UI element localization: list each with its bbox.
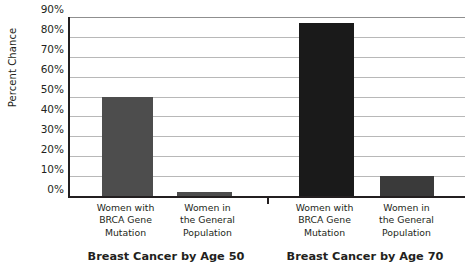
category-label-age70-general: Women in the General Population — [355, 202, 458, 239]
category-labels: Women with BRCA Gene Mutation Women in t… — [68, 202, 463, 244]
y-tick-label: 30% — [20, 124, 64, 135]
category-label-line: Women with — [296, 202, 354, 213]
y-tick-label: 70% — [20, 44, 64, 55]
category-label-line: the General — [379, 214, 434, 225]
y-tick-label: 80% — [20, 24, 64, 35]
category-label-line: BRCA Gene — [298, 214, 351, 225]
category-label-line: Mutation — [304, 227, 345, 238]
y-tick-label: 20% — [20, 144, 64, 155]
bar-age70-general — [380, 176, 434, 196]
y-tick-label: 0% — [20, 184, 64, 195]
category-label-line: Population — [183, 227, 232, 238]
y-tick-label: 10% — [20, 164, 64, 175]
group-title-age50: Breast Cancer by Age 50 — [68, 250, 264, 263]
bar-age50-general — [177, 192, 232, 196]
category-label-line: Women in — [383, 202, 429, 213]
y-tick-label: 90% — [20, 4, 64, 15]
bar-chart: Percent Chance 90% 80% 70% 60% 50% 40% 3… — [0, 0, 472, 274]
y-axis-tick-labels: 90% 80% 70% 60% 50% 40% 30% 20% 10% 0% — [20, 10, 64, 202]
category-label-line: BRCA Gene — [99, 214, 152, 225]
y-tick-label: 40% — [20, 104, 64, 115]
bar-age70-brca — [299, 23, 354, 196]
y-tick-label: 50% — [20, 84, 64, 95]
category-label-line: Women in — [184, 202, 230, 213]
category-label-line: Women with — [97, 202, 155, 213]
bar-age50-brca — [102, 97, 153, 196]
y-axis-title: Percent Chance — [7, 8, 18, 128]
plot-area — [68, 17, 465, 198]
y-tick-label: 60% — [20, 64, 64, 75]
category-label-line: Population — [382, 227, 431, 238]
category-label-age50-general: Women in the General Population — [156, 202, 259, 239]
group-title-age70: Breast Cancer by Age 70 — [267, 250, 463, 263]
group-titles: Breast Cancer by Age 50 Breast Cancer by… — [68, 250, 463, 270]
bars-layer — [70, 17, 465, 196]
category-label-line: the General — [180, 214, 235, 225]
category-label-line: Mutation — [105, 227, 146, 238]
